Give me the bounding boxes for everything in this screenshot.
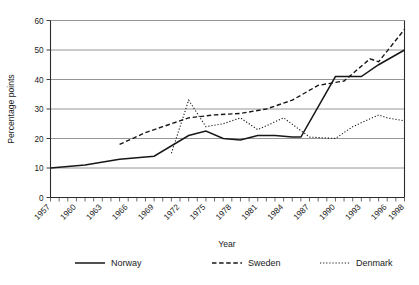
x-tick-label: 1960 bbox=[59, 202, 79, 222]
y-tick-label: 50 bbox=[34, 46, 44, 55]
x-axis-title: Year bbox=[218, 239, 236, 249]
x-tick-label: 1998 bbox=[387, 202, 407, 222]
x-tick-label: 1996 bbox=[369, 202, 389, 222]
y-tick-label: 10 bbox=[34, 164, 44, 173]
gridlines bbox=[51, 21, 405, 169]
x-axis-tick-labels: 1957196019631966196919721975197819811984… bbox=[33, 202, 407, 222]
x-tick-label: 1990 bbox=[318, 202, 338, 222]
y-tick-label: 20 bbox=[34, 135, 44, 144]
x-tick-label: 1993 bbox=[343, 202, 363, 222]
x-tick-label: 1975 bbox=[188, 202, 208, 222]
x-tick-label: 1963 bbox=[84, 202, 104, 222]
line-chart: 0102030405060 19571960196319661969197219… bbox=[0, 0, 419, 285]
legend-label-norway: Norway bbox=[111, 258, 142, 268]
x-tick-label: 1957 bbox=[33, 202, 53, 222]
x-tick-label: 1984 bbox=[266, 202, 286, 222]
x-tick-label: 1969 bbox=[136, 202, 156, 222]
y-tick-label: 40 bbox=[34, 76, 44, 85]
x-tick-label: 1981 bbox=[240, 202, 260, 222]
y-tick-label: 60 bbox=[34, 17, 44, 26]
y-axis-title: Percentage points bbox=[6, 74, 16, 143]
x-tick-label: 1972 bbox=[162, 202, 182, 222]
series-line-denmark bbox=[171, 100, 404, 153]
chart-figure: 0102030405060 19571960196319661969197219… bbox=[0, 0, 419, 285]
y-tick-label: 0 bbox=[39, 194, 44, 203]
legend-label-sweden: Sweden bbox=[248, 258, 281, 268]
x-axis-minor-ticks bbox=[51, 198, 405, 202]
x-tick-label: 1987 bbox=[292, 202, 312, 222]
x-tick-label: 1978 bbox=[214, 202, 234, 222]
chart-legend: NorwaySwedenDenmark bbox=[75, 258, 393, 268]
legend-label-denmark: Denmark bbox=[356, 258, 393, 268]
y-axis-ticks: 0102030405060 bbox=[34, 17, 50, 203]
y-tick-label: 30 bbox=[34, 105, 44, 114]
x-tick-label: 1966 bbox=[110, 202, 130, 222]
